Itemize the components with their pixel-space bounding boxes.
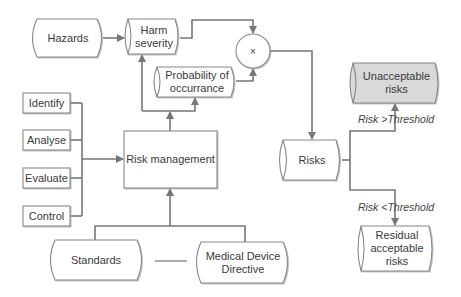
node-residual-acceptable-risks[interactable]: Residual acceptable risks — [361, 226, 433, 271]
node-probability[interactable]: Probability of occurrance — [158, 67, 236, 97]
harm-severity-label-1: Harm — [141, 24, 168, 37]
control-label: Control — [29, 210, 64, 223]
analyse-label: Analyse — [27, 134, 66, 147]
node-medical-device-directive[interactable]: Medical Device Directive — [196, 242, 290, 283]
residual-label-3: risks — [386, 255, 409, 268]
edge-probability-multiply — [236, 69, 253, 81]
risks-label: Risks — [299, 154, 326, 167]
edge-label-below-threshold: Risk <Threshold — [355, 200, 437, 214]
node-identify[interactable]: Identify — [23, 93, 70, 113]
harm-severity-label-2: severity — [135, 37, 173, 50]
above-threshold-text: Risk >Threshold — [358, 113, 434, 126]
identify-label: Identify — [29, 97, 64, 110]
node-harm-severity[interactable]: Harm severity — [128, 19, 180, 54]
node-risk-management[interactable]: Risk management — [124, 131, 217, 188]
edge-multiply-risks — [270, 51, 312, 139]
multiply-icon: × — [250, 45, 256, 58]
node-hazards[interactable]: Hazards — [30, 19, 106, 57]
residual-label-2: acceptable — [370, 242, 423, 255]
probability-label-2: occurrance — [170, 82, 224, 95]
unacceptable-label-2: risks — [385, 83, 408, 96]
below-threshold-text: Risk <Threshold — [358, 201, 434, 214]
hazards-label: Hazards — [48, 32, 89, 45]
mdd-label-1: Medical Device — [206, 250, 281, 263]
node-analyse[interactable]: Analyse — [23, 130, 70, 150]
risk-management-label: Risk management — [126, 153, 215, 166]
mdd-label-2: Directive — [222, 263, 265, 276]
edge-rm-probability — [142, 98, 195, 111]
node-unacceptable-risks[interactable]: Unacceptable risks — [353, 63, 440, 103]
node-control[interactable]: Control — [23, 206, 70, 226]
unacceptable-label-1: Unacceptable — [363, 70, 430, 83]
probability-label-1: Probability of — [165, 69, 229, 82]
edge-label-above-threshold: Risk >Threshold — [356, 112, 436, 126]
edge-risks-residual — [350, 160, 395, 225]
node-standards[interactable]: Standards — [48, 240, 144, 280]
node-evaluate[interactable]: Evaluate — [23, 168, 70, 188]
evaluate-label: Evaluate — [25, 172, 68, 185]
node-risks[interactable]: Risks — [283, 140, 341, 180]
standards-label: Standards — [71, 254, 121, 267]
residual-label-1: Residual — [376, 229, 419, 242]
node-multiply[interactable]: × — [236, 34, 270, 68]
